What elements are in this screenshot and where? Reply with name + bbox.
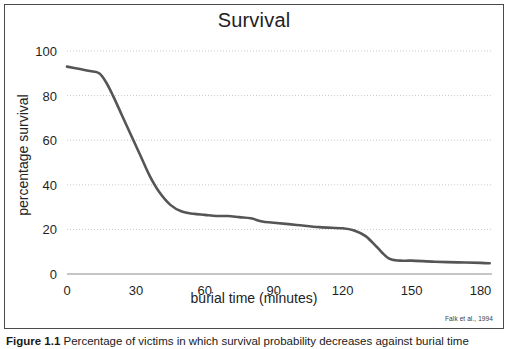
figure-caption-number: Figure 1.1 bbox=[6, 335, 60, 347]
chart-frame: Survival 020406080100 0306090120150180 p… bbox=[4, 4, 504, 329]
gridlines-group bbox=[67, 51, 492, 229]
y-tick-label: 40 bbox=[43, 178, 57, 193]
figure-caption-text: Percentage of victims in which survival … bbox=[64, 335, 469, 347]
figure-root: Survival 020406080100 0306090120150180 p… bbox=[0, 0, 512, 349]
y-axis-title: percentage survival bbox=[15, 65, 31, 245]
y-tick-label: 0 bbox=[50, 267, 57, 282]
y-tick-label: 20 bbox=[43, 222, 57, 237]
y-tick-labels: 020406080100 bbox=[35, 44, 57, 282]
source-credit: Falk et al., 1994 bbox=[445, 315, 493, 322]
y-tick-label: 100 bbox=[35, 44, 57, 59]
plot-canvas: 020406080100 0306090120150180 bbox=[5, 5, 505, 330]
series-line-percentage-survival bbox=[67, 67, 490, 264]
data-series-group bbox=[67, 67, 490, 264]
y-tick-label: 60 bbox=[43, 133, 57, 148]
x-axis-title: burial time (minutes) bbox=[5, 290, 503, 306]
y-tick-label: 80 bbox=[43, 89, 57, 104]
chart-inner: Survival 020406080100 0306090120150180 p… bbox=[5, 5, 503, 328]
figure-caption: Figure 1.1 Percentage of victims in whic… bbox=[6, 334, 506, 349]
